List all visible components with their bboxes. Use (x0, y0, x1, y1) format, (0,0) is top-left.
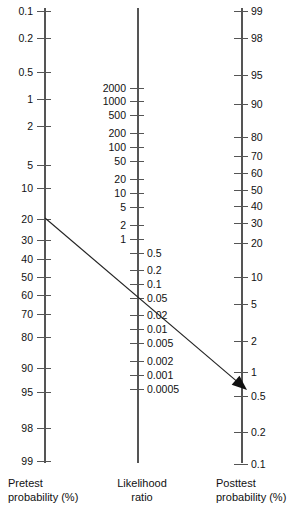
likelihood-ratio-tick (130, 115, 144, 116)
likelihood-ratio-tick (130, 375, 144, 376)
posttest-probability-tick (234, 304, 248, 305)
likelihood-ratio-tick (130, 193, 144, 194)
posttest-probability-tick-label: 90 (251, 99, 288, 110)
posttest-probability-tick (234, 190, 248, 191)
likelihood-ratio-tick (130, 161, 144, 162)
pretest-probability-tick-label: 40 (0, 254, 33, 265)
posttest-probability-tick-label: 2 (251, 336, 288, 347)
likelihood-ratio-tick-label: 50 (0, 156, 126, 167)
pretest-probability-tick (37, 392, 51, 393)
posttest-probability-tick-label: 70 (251, 151, 288, 162)
pretest-probability-tick (37, 38, 51, 39)
likelihood-ratio-tick-label: 2000 (0, 83, 126, 94)
posttest-probability-tick-label: 95 (251, 70, 288, 81)
likelihood-ratio-tick (130, 329, 144, 330)
likelihood-ratio-tick (130, 343, 144, 344)
pretest-probability-tick-label: 50 (0, 272, 33, 283)
likelihood-ratio-tick-label: 20 (0, 174, 126, 185)
likelihood-ratio-tick-label: 0.002 (147, 356, 288, 367)
pretest-probability-tick (37, 461, 51, 462)
posttest-probability-tick (234, 277, 248, 278)
likelihood-ratio-tick (130, 315, 144, 316)
likelihood-ratio-tick-label: 0.5 (147, 248, 288, 259)
likelihood-ratio-tick (130, 389, 144, 390)
likelihood-ratio-tick (130, 298, 144, 299)
likelihood-ratio-tick-label: 0.01 (147, 324, 288, 335)
posttest-probability-tick (234, 341, 248, 342)
pretest-probability-tick-label: 99 (0, 456, 33, 467)
posttest-probability-tick-label: 40 (251, 201, 288, 212)
pretest-probability-tick-label: 90 (0, 363, 33, 374)
likelihood-ratio-tick (130, 225, 144, 226)
posttest-probability-tick (234, 173, 248, 174)
posttest-probability-tick (234, 11, 248, 12)
likelihood-ratio-axis-caption-line2: ratio (103, 491, 181, 505)
pretest-probability-tick-label: 70 (0, 309, 33, 320)
pretest-axis-caption-line1: Pretest (8, 477, 104, 491)
pretest-probability-tick (37, 337, 51, 338)
posttest-axis-caption-line2: probability (%) (216, 491, 288, 505)
posttest-probability-tick (234, 156, 248, 157)
likelihood-ratio-tick (130, 147, 144, 148)
likelihood-ratio-tick-label: 200 (0, 128, 126, 139)
likelihood-ratio-tick (130, 179, 144, 180)
pretest-probability-tick-label: 0.5 (0, 67, 33, 78)
likelihood-ratio-tick (130, 270, 144, 271)
posttest-axis-caption: Posttest probability (%) (216, 477, 288, 504)
pretest-probability-tick-label: 98 (0, 423, 33, 434)
likelihood-ratio-tick (130, 133, 144, 134)
posttest-probability-tick-label: 0.2 (251, 427, 288, 438)
pretest-probability-tick (37, 259, 51, 260)
pretest-probability-tick (37, 368, 51, 369)
posttest-probability-tick (234, 104, 248, 105)
posttest-probability-tick (234, 396, 248, 397)
posttest-probability-tick-label: 98 (251, 33, 288, 44)
likelihood-ratio-axis-caption: Likelihood ratio (103, 477, 181, 504)
posttest-probability-tick (234, 432, 248, 433)
posttest-probability-tick-label: 99 (251, 6, 288, 17)
likelihood-ratio-tick (130, 88, 144, 89)
posttest-probability-tick (234, 137, 248, 138)
pretest-probability-tick (37, 11, 51, 12)
likelihood-ratio-tick (130, 253, 144, 254)
likelihood-ratio-axis-line (137, 8, 139, 463)
pretest-probability-tick-label: 0.2 (0, 33, 33, 44)
pretest-probability-tick-label: 0.1 (0, 6, 33, 17)
pretest-probability-tick (37, 126, 51, 127)
likelihood-ratio-tick-label: 100 (0, 142, 126, 153)
pretest-probability-tick (37, 314, 51, 315)
likelihood-ratio-tick-label: 1000 (0, 96, 126, 107)
posttest-probability-tick-label: 1 (251, 367, 288, 378)
likelihood-ratio-tick (130, 361, 144, 362)
posttest-probability-tick-label: 0.1 (251, 459, 288, 470)
likelihood-ratio-tick-label: 1 (0, 234, 126, 245)
likelihood-ratio-tick (130, 207, 144, 208)
posttest-probability-tick (234, 223, 248, 224)
posttest-probability-tick (234, 372, 248, 373)
pretest-probability-tick (37, 277, 51, 278)
likelihood-ratio-tick (130, 239, 144, 240)
pretest-probability-tick-label: 80 (0, 332, 33, 343)
pretest-probability-tick (37, 428, 51, 429)
likelihood-ratio-tick-label: 5 (0, 202, 126, 213)
likelihood-ratio-tick-label: 0.02 (147, 310, 288, 321)
pretest-probability-tick (37, 72, 51, 73)
posttest-probability-tick (234, 206, 248, 207)
posttest-probability-tick-label: 80 (251, 132, 288, 143)
posttest-probability-tick-label: 0.5 (251, 391, 288, 402)
pretest-probability-tick-label: 95 (0, 387, 33, 398)
likelihood-ratio-tick (130, 101, 144, 102)
pretest-axis-caption-line2: probability (%) (8, 491, 104, 505)
posttest-probability-tick-label: 10 (251, 272, 288, 283)
pretest-probability-tick (37, 295, 51, 296)
posttest-probability-tick (234, 38, 248, 39)
likelihood-ratio-tick (130, 284, 144, 285)
posttest-probability-tick-label: 50 (251, 185, 288, 196)
posttest-probability-tick (234, 464, 248, 465)
likelihood-ratio-tick-label: 10 (0, 188, 126, 199)
posttest-probability-tick-label: 5 (251, 299, 288, 310)
likelihood-ratio-axis-caption-line1: Likelihood (103, 477, 181, 491)
fagan-nomogram: 0.10.20.51251020304050607080909598992000… (0, 0, 288, 506)
likelihood-ratio-tick-label: 2 (0, 220, 126, 231)
posttest-axis-line (241, 8, 243, 463)
